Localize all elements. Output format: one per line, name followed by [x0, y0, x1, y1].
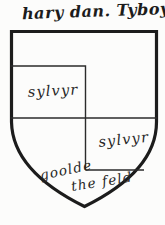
quarter4-tincture-label: sylvyr — [98, 129, 150, 150]
shield-diagram: sylvyr sylvyr goolde the feld — [0, 0, 165, 225]
manuscript-page: hary dan. Tyboyn sylvyr sylvyr goolde th… — [0, 0, 165, 225]
quarter1-tincture-label: sylvyr — [27, 81, 79, 100]
